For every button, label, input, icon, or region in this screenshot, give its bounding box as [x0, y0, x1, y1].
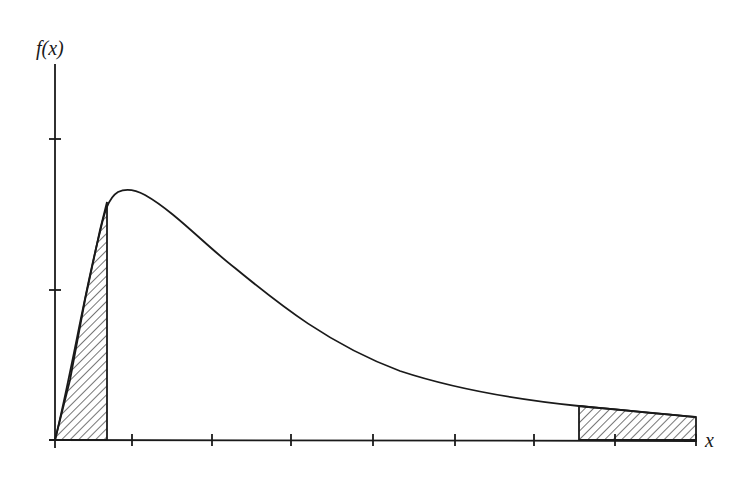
x-axis-label: x: [704, 429, 714, 451]
density-curve: [55, 190, 696, 440]
density-chart: f(x) x: [0, 0, 747, 485]
y-axis-label: f(x): [36, 37, 64, 60]
